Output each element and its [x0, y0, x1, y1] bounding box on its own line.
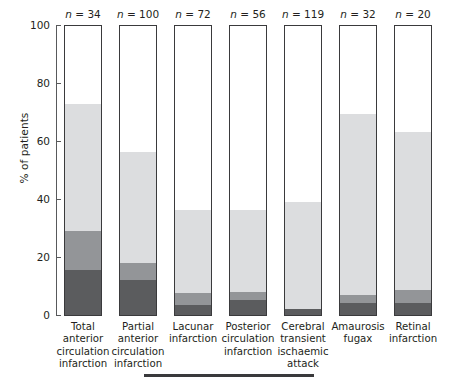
bar[interactable]	[64, 25, 102, 316]
bar-segment-medium	[175, 293, 211, 305]
n-label: n = 119	[282, 8, 324, 20]
bar-group: n = 100Partialanteriorcirculationinfarct…	[119, 0, 157, 381]
bar[interactable]	[284, 25, 322, 316]
bar-segment-medium	[120, 263, 156, 280]
n-label: n = 34	[65, 8, 101, 20]
n-label: n = 56	[230, 8, 266, 20]
bar-segment-dark	[65, 270, 101, 315]
bar[interactable]	[394, 25, 432, 316]
bar-segment-medium	[395, 290, 431, 303]
bar-segment-light	[65, 104, 101, 231]
bar-segment-dark	[340, 303, 376, 315]
bar-segment-medium	[65, 231, 101, 270]
bar-segment-light	[230, 210, 266, 291]
x-axis-category-label: Retinalinfarction	[376, 321, 450, 346]
bar-segment-light	[175, 210, 211, 293]
bar[interactable]	[339, 25, 377, 316]
stacked-bar-chart: % of patients 100 80 60 40 20 0 n = 34To…	[0, 0, 459, 381]
bar-group: n = 20Retinalinfarction	[394, 0, 432, 381]
bar-group: n = 119Cerebraltransientischaemicattack	[284, 0, 322, 381]
n-label: n = 32	[340, 8, 376, 20]
bar-segment-dark	[175, 305, 211, 315]
bar-segment-medium	[340, 295, 376, 304]
bar-group: n = 34Totalanteriorcirculationinfarction	[64, 0, 102, 381]
bar[interactable]	[119, 25, 157, 316]
bar-segment-dark	[395, 303, 431, 315]
bar-group: n = 56Posteriorcirculationinfarction	[229, 0, 267, 381]
n-label: n = 72	[175, 8, 211, 20]
bar-segment-light	[340, 114, 376, 294]
bar-segment-light	[285, 202, 321, 310]
bar[interactable]	[229, 25, 267, 316]
bar-segment-light	[120, 152, 156, 263]
n-label: n = 20	[395, 8, 431, 20]
bar-segment-dark	[120, 280, 156, 315]
bar-segment-dark	[285, 309, 321, 315]
footer-rule	[144, 374, 314, 377]
bar-segment-medium	[230, 292, 266, 301]
bar-group: n = 72Lacunarinfarction	[174, 0, 212, 381]
bar[interactable]	[174, 25, 212, 316]
bars-layer: n = 34Totalanteriorcirculationinfarction…	[0, 0, 459, 381]
bar-segment-light	[395, 132, 431, 291]
bar-group: n = 32Amaurosisfugax	[339, 0, 377, 381]
bar-segment-dark	[230, 300, 266, 315]
n-label: n = 100	[117, 8, 159, 20]
